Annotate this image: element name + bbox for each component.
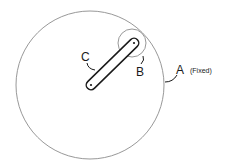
label-a: A [176, 64, 184, 76]
planetary-gear-diagram [0, 0, 227, 167]
pivot-dot-center [90, 84, 92, 86]
pivot-dot-planet [133, 42, 135, 44]
leader-line-b [141, 56, 144, 64]
label-b: B [136, 66, 144, 78]
leader-line-c [87, 63, 95, 70]
label-a-fixed-note: (Fixed) [190, 67, 212, 74]
label-c: C [81, 51, 90, 63]
arm-c-link-fill [91, 43, 134, 85]
